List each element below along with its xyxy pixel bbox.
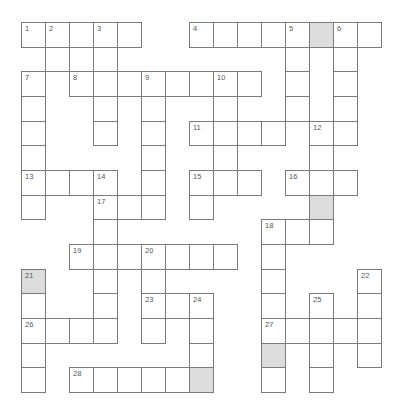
crossword-cell[interactable]: 10 [213, 71, 238, 97]
crossword-cell[interactable] [357, 22, 382, 48]
crossword-cell[interactable]: 6 [333, 22, 358, 48]
crossword-cell[interactable]: 1 [21, 22, 46, 48]
crossword-cell[interactable] [261, 244, 286, 270]
shaded-crossword-cell[interactable] [309, 195, 334, 221]
crossword-cell[interactable] [93, 121, 118, 147]
crossword-cell[interactable] [93, 269, 118, 295]
crossword-cell[interactable]: 15 [189, 170, 214, 196]
crossword-cell[interactable]: 27 [261, 318, 286, 344]
shaded-crossword-cell[interactable] [189, 367, 214, 393]
crossword-cell[interactable] [117, 22, 142, 48]
crossword-cell[interactable] [93, 47, 118, 73]
crossword-cell[interactable] [213, 96, 238, 122]
crossword-cell[interactable] [93, 219, 118, 245]
crossword-cell[interactable] [21, 96, 46, 122]
crossword-cell[interactable] [141, 195, 166, 221]
crossword-cell[interactable] [285, 219, 310, 245]
crossword-cell[interactable] [165, 367, 190, 393]
crossword-cell[interactable] [213, 145, 238, 171]
crossword-cell[interactable] [117, 71, 142, 97]
crossword-cell[interactable] [21, 367, 46, 393]
crossword-cell[interactable]: 24 [189, 293, 214, 319]
shaded-crossword-cell[interactable]: 21 [21, 269, 46, 295]
crossword-cell[interactable]: 13 [21, 170, 46, 196]
crossword-cell[interactable] [189, 71, 214, 97]
crossword-cell[interactable] [285, 47, 310, 73]
crossword-cell[interactable] [189, 195, 214, 221]
crossword-cell[interactable]: 28 [69, 367, 94, 393]
crossword-cell[interactable] [309, 367, 334, 393]
crossword-cell[interactable] [237, 170, 262, 196]
crossword-cell[interactable] [45, 170, 70, 196]
crossword-cell[interactable] [69, 170, 94, 196]
crossword-cell[interactable]: 18 [261, 219, 286, 245]
crossword-cell[interactable]: 4 [189, 22, 214, 48]
crossword-cell[interactable] [285, 96, 310, 122]
crossword-cell[interactable] [93, 367, 118, 393]
crossword-cell[interactable]: 11 [189, 121, 214, 147]
crossword-cell[interactable] [21, 293, 46, 319]
crossword-cell[interactable] [333, 71, 358, 97]
crossword-cell[interactable]: 9 [141, 71, 166, 97]
crossword-cell[interactable] [285, 318, 310, 344]
crossword-cell[interactable] [93, 318, 118, 344]
crossword-cell[interactable] [357, 293, 382, 319]
crossword-cell[interactable] [45, 318, 70, 344]
crossword-cell[interactable]: 8 [69, 71, 94, 97]
crossword-cell[interactable]: 7 [21, 71, 46, 97]
crossword-cell[interactable] [309, 219, 334, 245]
crossword-cell[interactable] [261, 22, 286, 48]
crossword-cell[interactable] [213, 170, 238, 196]
crossword-cell[interactable] [309, 145, 334, 171]
crossword-cell[interactable] [93, 293, 118, 319]
crossword-cell[interactable] [333, 47, 358, 73]
crossword-cell[interactable] [333, 96, 358, 122]
crossword-cell[interactable] [213, 244, 238, 270]
crossword-cell[interactable] [141, 170, 166, 196]
crossword-cell[interactable] [333, 170, 358, 196]
crossword-cell[interactable] [333, 121, 358, 147]
crossword-cell[interactable]: 16 [285, 170, 310, 196]
crossword-cell[interactable] [165, 293, 190, 319]
crossword-cell[interactable] [21, 121, 46, 147]
crossword-cell[interactable] [285, 71, 310, 97]
crossword-cell[interactable]: 14 [93, 170, 118, 196]
crossword-cell[interactable] [261, 121, 286, 147]
crossword-cell[interactable] [21, 145, 46, 171]
crossword-cell[interactable] [141, 145, 166, 171]
crossword-cell[interactable] [261, 293, 286, 319]
crossword-cell[interactable] [93, 71, 118, 97]
crossword-cell[interactable] [189, 343, 214, 369]
crossword-cell[interactable]: 3 [93, 22, 118, 48]
crossword-cell[interactable]: 2 [45, 22, 70, 48]
crossword-cell[interactable]: 12 [309, 121, 334, 147]
crossword-cell[interactable] [165, 71, 190, 97]
crossword-cell[interactable] [309, 318, 334, 344]
crossword-cell[interactable]: 26 [21, 318, 46, 344]
crossword-cell[interactable] [309, 170, 334, 196]
crossword-cell[interactable] [141, 318, 166, 344]
crossword-cell[interactable] [141, 269, 166, 295]
crossword-cell[interactable]: 20 [141, 244, 166, 270]
crossword-cell[interactable] [117, 367, 142, 393]
crossword-cell[interactable] [69, 22, 94, 48]
crossword-cell[interactable]: 23 [141, 293, 166, 319]
shaded-crossword-cell[interactable] [309, 22, 334, 48]
crossword-cell[interactable] [333, 318, 358, 344]
crossword-cell[interactable] [45, 47, 70, 73]
crossword-cell[interactable] [21, 195, 46, 221]
crossword-cell[interactable]: 19 [69, 244, 94, 270]
crossword-cell[interactable] [141, 121, 166, 147]
crossword-cell[interactable] [261, 367, 286, 393]
crossword-cell[interactable] [117, 244, 142, 270]
crossword-cell[interactable]: 25 [309, 293, 334, 319]
crossword-cell[interactable] [21, 343, 46, 369]
crossword-cell[interactable]: 17 [93, 195, 118, 221]
crossword-cell[interactable] [93, 96, 118, 122]
crossword-cell[interactable] [189, 244, 214, 270]
crossword-cell[interactable] [117, 195, 142, 221]
crossword-cell[interactable] [261, 269, 286, 295]
crossword-cell[interactable] [141, 367, 166, 393]
crossword-cell[interactable] [237, 121, 262, 147]
shaded-crossword-cell[interactable] [261, 343, 286, 369]
